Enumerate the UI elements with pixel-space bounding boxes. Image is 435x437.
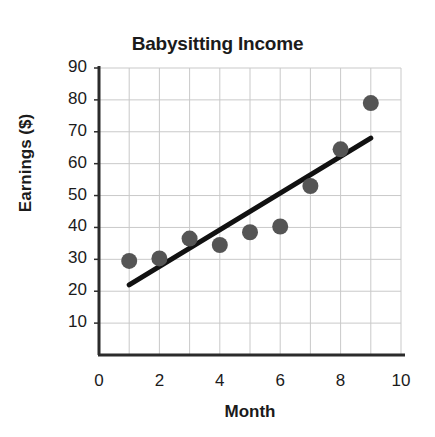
chart-figure: Babysitting Income Earnings ($) Month 10… — [0, 0, 435, 437]
data-point — [333, 141, 349, 157]
data-point — [363, 95, 379, 111]
x-tick-label: 2 — [139, 371, 179, 391]
data-point — [212, 237, 228, 253]
data-point — [151, 250, 167, 266]
y-tick-label: 60 — [45, 153, 87, 173]
x-tick-label: 10 — [381, 371, 421, 391]
y-tick-label: 80 — [45, 89, 87, 109]
y-tick-label: 50 — [45, 185, 87, 205]
data-point — [302, 178, 318, 194]
data-point — [242, 224, 258, 240]
x-tick-label: 6 — [260, 371, 300, 391]
y-tick-label: 20 — [45, 280, 87, 300]
y-tick-label: 30 — [45, 248, 87, 268]
x-tick-label: 8 — [321, 371, 361, 391]
data-point — [272, 218, 288, 234]
y-tick-label: 70 — [45, 121, 87, 141]
data-point — [121, 253, 137, 269]
data-point — [182, 231, 198, 247]
x-tick-label: 0 — [79, 371, 119, 391]
y-tick-label: 40 — [45, 216, 87, 236]
y-tick-label: 10 — [45, 312, 87, 332]
x-tick-label: 4 — [200, 371, 240, 391]
y-tick-label: 90 — [45, 57, 87, 77]
